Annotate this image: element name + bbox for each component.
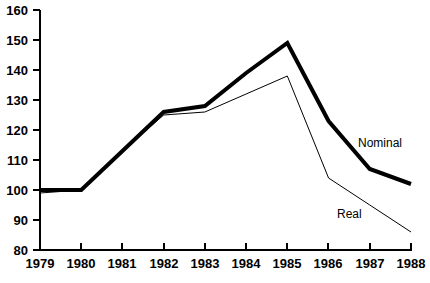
- y-tick-label-140: 140: [0, 64, 28, 77]
- y-tick-label-80: 80: [0, 244, 28, 257]
- series-label-nominal: Nominal: [358, 137, 402, 149]
- y-axis-ticks: [33, 10, 40, 250]
- y-tick-label-150: 150: [0, 34, 28, 47]
- series-line-nominal: [40, 43, 411, 190]
- y-tick-label-130: 130: [0, 94, 28, 107]
- y-tick-label-90: 90: [0, 214, 28, 227]
- y-tick-label-160: 160: [0, 4, 28, 17]
- y-tick-label-110: 110: [0, 154, 28, 167]
- series-label-real: Real: [337, 208, 362, 220]
- y-tick-label-100: 100: [0, 184, 28, 197]
- x-tick-label-1988: 1988: [386, 257, 430, 270]
- y-tick-label-120: 120: [0, 124, 28, 137]
- x-axis-ticks: [40, 243, 411, 250]
